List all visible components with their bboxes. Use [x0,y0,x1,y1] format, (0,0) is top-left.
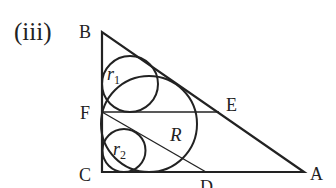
triangle-abc [102,32,304,172]
part-label: (iii) [14,18,52,46]
label-r2: r2 [113,139,126,162]
label-c: C [79,165,91,185]
geometry-figure: (iii) B C F E A D r1 R r2 [0,0,336,188]
label-R: R [169,124,182,145]
label-r1: r1 [107,64,120,87]
label-e: E [226,95,237,115]
label-a: A [310,164,323,184]
label-d: D [200,177,213,188]
label-f: F [80,103,90,123]
label-b: B [79,22,91,42]
